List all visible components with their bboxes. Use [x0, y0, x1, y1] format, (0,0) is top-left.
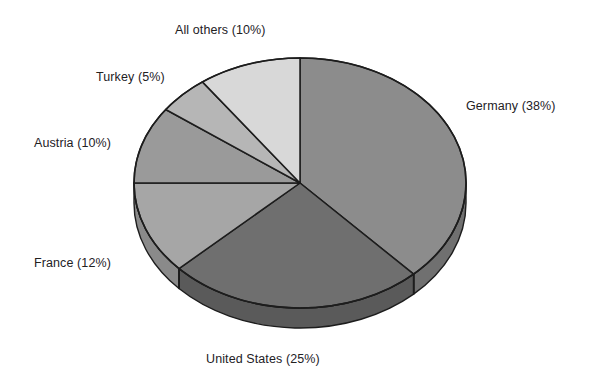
slice-label-turkey: Turkey (5%) [96, 70, 165, 84]
slice-label-all-others: All others (10%) [175, 23, 266, 37]
pie-chart-graphic [0, 0, 592, 379]
slice-label-germany: Germany (38%) [466, 99, 556, 113]
slice-label-france: France (12%) [34, 256, 111, 270]
pie-chart-figure: All others (10%) Turkey (5%) Austria (10… [0, 0, 592, 379]
slice-label-austria: Austria (10%) [34, 136, 111, 150]
slice-label-united-states: United States (25%) [206, 352, 320, 366]
pie-top-faces [134, 58, 466, 308]
